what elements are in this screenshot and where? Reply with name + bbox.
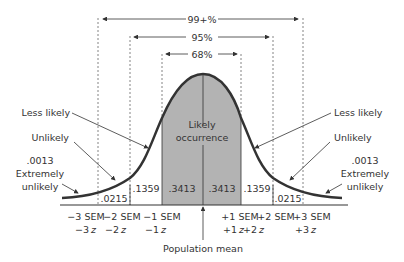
p0013-left: .0013 xyxy=(26,155,53,166)
p0013-right: .0013 xyxy=(351,155,378,166)
sem-m3: −3 SEM xyxy=(67,211,104,222)
unlikely-left: Unlikely xyxy=(31,132,69,143)
unlikely-right: Unlikely xyxy=(334,132,372,143)
likely-label-1: Likely xyxy=(188,119,216,130)
extremely-left: Extremely xyxy=(16,168,65,179)
less-likely-left: Less likely xyxy=(22,107,71,118)
z-m3: −3z xyxy=(75,224,97,235)
pct68-label: 68% xyxy=(191,49,212,60)
unlikely-right-2: unlikely xyxy=(347,181,384,192)
sem-p3: +3 SEM xyxy=(293,211,330,222)
pct95-label: 95% xyxy=(191,32,212,43)
v1359-right: .1359 xyxy=(243,183,270,194)
pct99-label: 99+% xyxy=(187,14,216,25)
v0215-right: .0215 xyxy=(274,193,301,204)
sem-m2: −2 SEM xyxy=(103,211,140,222)
z-m2: −2z xyxy=(105,224,127,235)
z-p1: +1z xyxy=(223,224,245,235)
less-likely-right: Less likely xyxy=(334,107,383,118)
v3413-left: .3413 xyxy=(168,183,195,194)
v0215-left: .0215 xyxy=(100,193,127,204)
v1359-left: .1359 xyxy=(132,183,159,194)
sem-p1: +1 SEM xyxy=(221,211,258,222)
z-p3: +3z xyxy=(295,224,317,235)
z-p2: +2z xyxy=(243,224,265,235)
z-m1: −1z xyxy=(145,224,167,235)
sem-m1: −1 SEM xyxy=(143,211,180,222)
unlikely-left-2: unlikely xyxy=(22,181,59,192)
extremely-right: Extremely xyxy=(341,168,390,179)
sem-p2: +2 SEM xyxy=(257,211,294,222)
v3413-right: .3413 xyxy=(208,183,235,194)
population-mean-label: Population mean xyxy=(163,243,243,254)
normal-curve-diagram: 99+% 95% 68% Likely occurrence Less like… xyxy=(0,0,404,262)
likely-label-2: occurrence xyxy=(176,132,229,143)
